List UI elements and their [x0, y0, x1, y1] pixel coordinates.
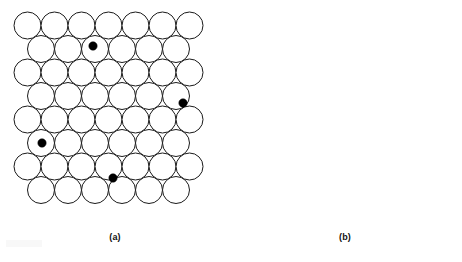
lattice-panel-b	[0, 0, 231, 225]
figure-root: (a) (b)	[0, 0, 462, 262]
panel-caption-a: (a)	[95, 232, 135, 242]
panel-caption-b: (b)	[325, 232, 365, 242]
lattice-diagram-b	[0, 0, 231, 225]
scan-artifact	[6, 240, 42, 247]
